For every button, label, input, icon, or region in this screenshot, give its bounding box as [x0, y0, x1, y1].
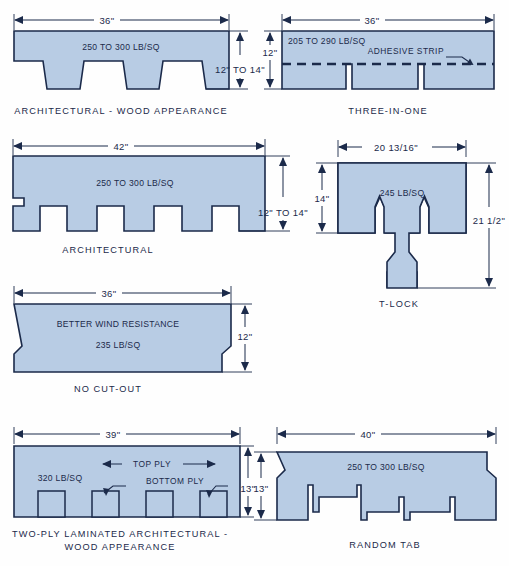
bottom-ply-box	[92, 491, 119, 517]
figure-architectural: 42" 250 TO 300 LB/SQ 12" TO 14" ARCHITEC…	[13, 139, 308, 255]
width-dimension: 40"	[277, 427, 496, 444]
top-ply-label: TOP PLY	[133, 459, 171, 469]
weight-label: 250 TO 300 LB/SQ	[82, 42, 160, 52]
width-dimension: 20 13/16"	[338, 140, 466, 157]
weight-label: 205 TO 290 LB/SQ	[288, 36, 366, 46]
height-dimension: 12"	[262, 31, 282, 89]
dim-height-label: 12"	[237, 331, 252, 342]
shingle-outline	[14, 31, 229, 89]
figure-caption: THREE-IN-ONE	[348, 106, 428, 116]
figure-no-cut-out: 36" BETTER WIND RESISTANCE 235 LB/SQ 12"…	[14, 286, 253, 394]
dim-height-label: 12" TO 14"	[258, 207, 308, 218]
width-dimension: 36"	[14, 286, 231, 303]
figure-caption: T-LOCK	[379, 299, 419, 309]
figure-random-tab: 40" 250 TO 300 LB/SQ 13" RANDOM TAB	[253, 427, 496, 550]
figure-caption: NO CUT-OUT	[74, 384, 142, 394]
width-dimension: 42"	[13, 139, 265, 155]
bottom-ply-box	[38, 491, 65, 517]
figure-architectural-wood-appearance: 36" 250 TO 300 LB/SQ 12" TO 14" ARCHITEC…	[14, 14, 265, 116]
figure-caption: ARCHITECTURAL - WOOD APPEARANCE	[14, 106, 227, 116]
dim-width-label: 20 13/16"	[374, 142, 418, 153]
height-dimension-14: 14"	[314, 163, 338, 233]
dim-width-label: 40"	[360, 429, 375, 440]
height-dimension: 13"	[240, 446, 256, 517]
weight-label: 320 LB/SQ	[38, 473, 83, 483]
figure-caption: ARCHITECTURAL	[62, 245, 153, 255]
dim-width-label: 39"	[105, 429, 120, 440]
dim-overall-height-label: 21 1/2"	[473, 215, 506, 226]
bottom-ply-box	[146, 491, 173, 517]
dim-width-label: 36"	[101, 288, 116, 299]
weight-label: 235 LB/SQ	[96, 340, 141, 350]
width-dimension: 39"	[14, 427, 240, 444]
feature-label: BETTER WIND RESISTANCE	[57, 319, 179, 329]
height-dimension: 13"	[253, 452, 277, 520]
shingle-outline	[14, 304, 231, 372]
shingle-outline	[13, 156, 265, 231]
figure-caption: RANDOM TAB	[349, 540, 420, 550]
adhesive-strip-label: ADHESIVE STRIP	[368, 46, 444, 56]
width-dimension: 36"	[282, 14, 494, 30]
weight-label: 250 TO 300 LB/SQ	[347, 462, 425, 472]
dim-height-label: 14"	[314, 193, 329, 204]
dim-height-label: 12" TO 14"	[215, 64, 265, 75]
dim-width-label: 42"	[113, 141, 128, 152]
weight-label: 245 LB/SQ	[380, 188, 425, 198]
figure-caption-line2: WOOD APPEARANCE	[65, 542, 176, 552]
shingle-diagram-sheet: 36" 250 TO 300 LB/SQ 12" TO 14" ARCHITEC…	[0, 0, 509, 566]
t-lock-body	[338, 163, 466, 288]
weight-label: 250 TO 300 LB/SQ	[96, 178, 174, 188]
width-dimension: 36"	[14, 14, 229, 30]
figure-t-lock: 20 13/16" 245 LB/SQ 14" 21 1/2" T-LOCK	[314, 140, 505, 309]
bottom-ply-box	[200, 491, 227, 517]
dim-width-label: 36"	[364, 15, 379, 26]
dim-height-label: 13"	[253, 483, 268, 494]
figure-caption-line1: TWO-PLY LAMINATED ARCHITECTURAL -	[12, 529, 228, 539]
bottom-ply-label: BOTTOM PLY	[146, 476, 204, 486]
figure-three-in-one: 36" 205 TO 290 LB/SQ ADHESIVE STRIP 12" …	[262, 14, 494, 116]
dim-width-label: 36"	[99, 15, 114, 26]
figure-two-ply-laminated: 39" TOP PLY 320 LB/SQ BOTTOM PLY 13"	[12, 427, 256, 552]
dim-height-label: 12"	[262, 47, 277, 58]
